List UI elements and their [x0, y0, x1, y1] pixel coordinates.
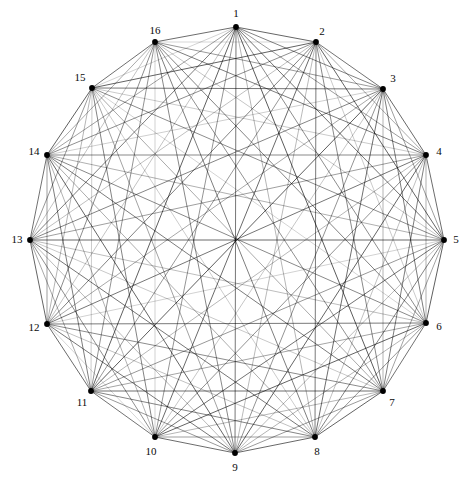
graph-edge [383, 240, 444, 391]
graph-edge [30, 240, 383, 391]
graph-edge [92, 88, 383, 391]
graph-node-4[interactable] [423, 152, 429, 158]
graph-edge [47, 88, 92, 155]
graph-node-3[interactable] [380, 86, 386, 92]
graph-edge [155, 42, 426, 323]
node-label-8: 8 [314, 445, 320, 457]
node-label-15: 15 [75, 71, 87, 83]
node-label-3: 3 [390, 72, 396, 84]
graph-edge [316, 42, 426, 155]
node-label-1: 1 [233, 7, 239, 19]
graph-canvas: 12345678910111213141516 [0, 0, 466, 481]
graph-node-13[interactable] [27, 237, 33, 243]
graph-edge [91, 391, 235, 453]
node-label-16: 16 [150, 24, 162, 36]
graph-edge [92, 27, 236, 88]
graph-edge [92, 88, 444, 240]
graph-node-15[interactable] [89, 85, 95, 91]
node-label-14: 14 [29, 145, 41, 157]
graph-edge [155, 240, 444, 437]
graph-node-6[interactable] [423, 320, 429, 326]
graph-edge [47, 155, 155, 437]
node-label-11: 11 [77, 396, 88, 408]
graph-edge [426, 240, 444, 323]
node-label-10: 10 [146, 445, 158, 457]
node-label-12: 12 [29, 321, 40, 333]
graph-node-2[interactable] [313, 39, 319, 45]
graph-edge [30, 240, 47, 324]
graph-node-9[interactable] [232, 450, 238, 456]
graph-edge [30, 240, 91, 391]
graph-edge [30, 42, 155, 240]
graph-edge [30, 155, 426, 240]
graph-edge [155, 42, 426, 155]
graph-edge [47, 89, 383, 155]
graph-edge [92, 88, 383, 89]
graph-edge [383, 155, 426, 391]
graph-edge [47, 324, 315, 437]
graph-edge [383, 89, 426, 323]
graph-edge [235, 155, 426, 453]
graph-node-14[interactable] [44, 152, 50, 158]
node-label-6: 6 [436, 320, 442, 332]
node-label-2: 2 [319, 25, 325, 37]
graph-node-5[interactable] [441, 237, 447, 243]
graph-edge [47, 324, 235, 453]
graph-node-11[interactable] [88, 388, 94, 394]
graph-edge [30, 240, 155, 437]
graph-edge [47, 323, 426, 324]
node-label-9: 9 [232, 461, 238, 473]
node-label-7: 7 [389, 396, 395, 408]
graph-node-7[interactable] [380, 388, 386, 394]
node-label-13: 13 [12, 233, 24, 245]
node-label-5: 5 [453, 233, 459, 245]
graph-edge [426, 155, 444, 240]
graph-node-10[interactable] [152, 434, 158, 440]
graph-node-12[interactable] [44, 321, 50, 327]
graph-node-8[interactable] [312, 434, 318, 440]
graph-edge [91, 27, 236, 391]
graph-edge [315, 323, 426, 437]
node-label-4: 4 [436, 145, 442, 157]
graph-node-1[interactable] [233, 24, 239, 30]
graph-edge [47, 27, 236, 155]
graph-node-16[interactable] [152, 39, 158, 45]
graph-edge [155, 155, 426, 437]
graph-edge [30, 89, 383, 240]
graph-edge [235, 240, 444, 453]
graph-edge [30, 155, 47, 240]
graph-edge [91, 88, 92, 391]
graph-figure: 12345678910111213141516 [0, 0, 466, 481]
graph-edge [30, 27, 236, 240]
